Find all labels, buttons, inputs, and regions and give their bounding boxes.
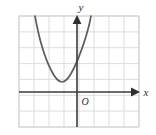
x-axis-label: x	[143, 86, 149, 98]
coordinate-plane-figure: x y O	[0, 0, 156, 135]
origin-label: O	[81, 96, 88, 107]
y-axis-label: y	[78, 1, 84, 13]
figure-screenshot: x y O	[0, 0, 156, 135]
